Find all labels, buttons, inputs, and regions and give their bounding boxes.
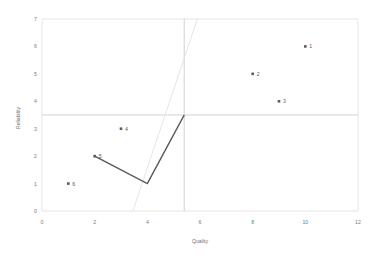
x-tick-label: 8 xyxy=(251,219,254,225)
point-marker xyxy=(251,73,254,76)
point-marker xyxy=(120,127,123,130)
chart-canvas: 024681012 01234567 123456 Quality Reliab… xyxy=(0,0,375,263)
x-tick-label: 4 xyxy=(146,219,149,225)
y-tick-label: 6 xyxy=(34,43,37,49)
point-label: 2 xyxy=(257,71,260,77)
x-tick-label: 12 xyxy=(355,219,361,225)
x-tick-label: 6 xyxy=(199,219,202,225)
y-tick-label: 2 xyxy=(34,153,37,159)
point-label: 3 xyxy=(283,98,286,104)
y-tick-label: 7 xyxy=(34,16,37,22)
x-tick-label: 2 xyxy=(93,219,96,225)
y-tick-label: 1 xyxy=(34,181,37,187)
x-axis-title: Quality xyxy=(192,238,209,244)
chart-background xyxy=(0,0,375,263)
point-label: 5 xyxy=(99,153,102,159)
point-marker xyxy=(278,100,281,103)
x-tick-label: 0 xyxy=(41,219,44,225)
y-tick-label: 0 xyxy=(34,208,37,214)
x-tick-label: 10 xyxy=(302,219,308,225)
point-marker xyxy=(67,182,70,185)
y-tick-label: 3 xyxy=(34,126,37,132)
point-label: 6 xyxy=(72,181,75,187)
y-tick-label: 5 xyxy=(34,71,37,77)
point-label: 4 xyxy=(125,126,128,132)
scatter-chart: 024681012 01234567 123456 Quality Reliab… xyxy=(0,0,375,263)
point-label: 1 xyxy=(309,43,312,49)
y-tick-label: 4 xyxy=(34,98,37,104)
y-axis-title: Reliability xyxy=(15,106,21,129)
point-marker xyxy=(93,155,96,158)
point-marker xyxy=(304,45,307,48)
